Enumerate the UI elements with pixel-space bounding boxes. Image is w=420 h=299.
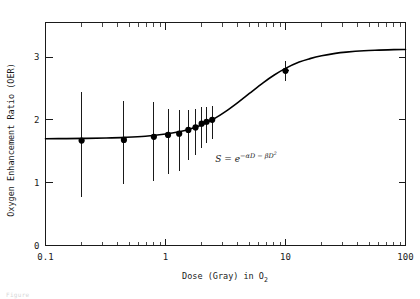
- data-point: [185, 127, 191, 133]
- data-point: [282, 68, 288, 74]
- oer-dose-chart: 0.1110100 0123 S = e−αD − βD2 Dose (Gray…: [0, 0, 420, 299]
- y-tick-label: 1: [34, 178, 39, 188]
- data-point: [176, 131, 182, 137]
- data-point: [151, 134, 157, 140]
- y-tick-label: 3: [34, 52, 39, 62]
- data-point: [79, 137, 85, 143]
- x-tick-label: 100: [397, 252, 413, 262]
- y-axis-label: Oxygen Enhancement Ratio (OER): [6, 63, 16, 217]
- data-point: [209, 117, 215, 123]
- chart-background: [0, 0, 420, 299]
- data-point: [203, 119, 209, 125]
- x-tick-label: 1: [163, 252, 168, 262]
- x-tick-label: 10: [280, 252, 291, 262]
- figure-container: 0.1110100 0123 S = e−αD − βD2 Dose (Gray…: [0, 0, 420, 299]
- data-point: [121, 137, 127, 143]
- y-tick-label: 2: [34, 115, 39, 125]
- figure-caption: Figure: [6, 291, 29, 298]
- x-tick-label: 0.1: [37, 252, 53, 262]
- y-tick-label: 0: [34, 241, 39, 251]
- data-point: [192, 124, 198, 130]
- data-point: [165, 132, 171, 138]
